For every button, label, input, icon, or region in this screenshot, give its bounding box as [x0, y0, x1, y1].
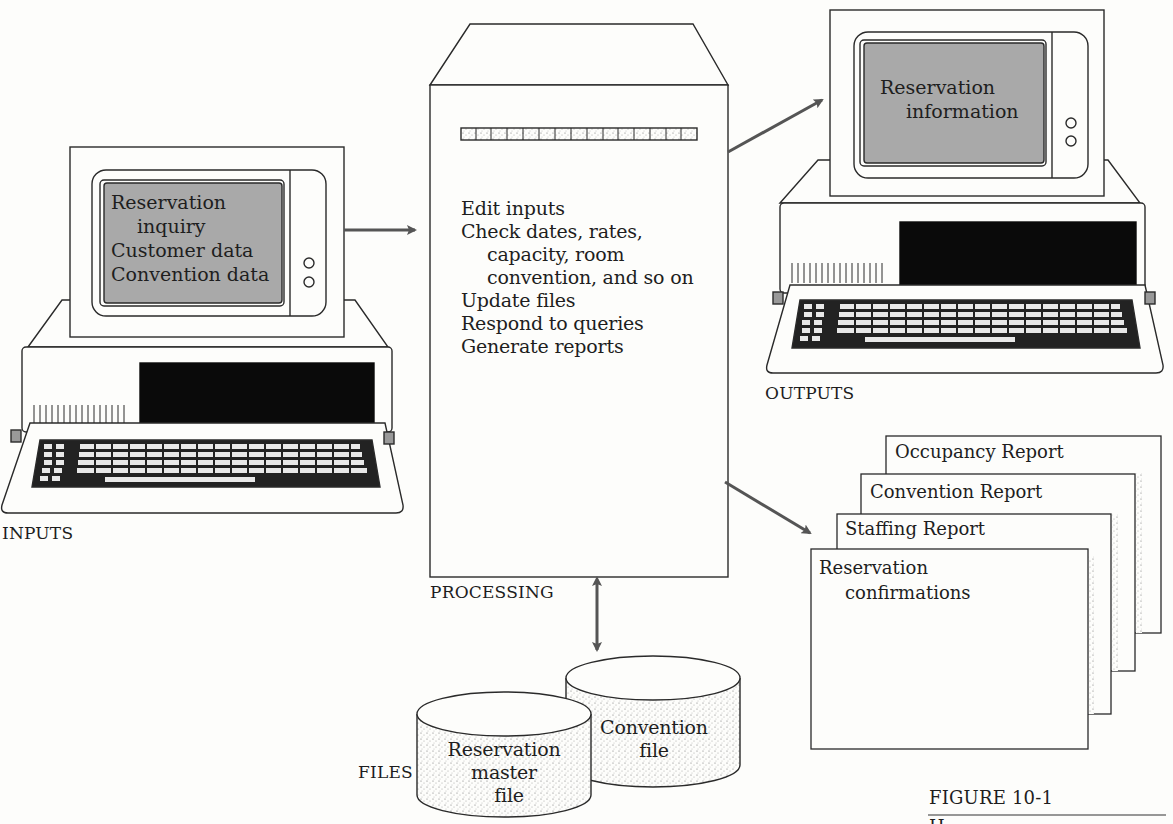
reservation-master-file-label: Reservation master file — [446, 738, 562, 807]
input-screen-text: Reservation inquiry Customer data Conven… — [111, 190, 269, 286]
figure-caption-cut: H — [929, 816, 945, 824]
processing-step: Edit inputs — [461, 197, 693, 220]
figure-caption: FIGURE 10-1 — [929, 787, 1053, 808]
output-computer-icon — [767, 10, 1164, 373]
diagram-graphics — [0, 0, 1173, 824]
report-convention: Convention Report — [870, 481, 1042, 502]
input-screen-line: Convention data — [111, 262, 269, 286]
arrow-processing-to-outputs — [728, 100, 822, 152]
files-label: FILES — [358, 762, 413, 782]
processing-label: PROCESSING — [430, 582, 554, 602]
file-label-line: master — [446, 761, 562, 784]
processing-step: Update files — [461, 289, 693, 312]
processing-step: capacity, room — [461, 243, 693, 266]
output-screen-line: information — [880, 99, 1019, 123]
processing-step: convention, and so on — [461, 266, 693, 289]
processing-step: Check dates, rates, — [461, 220, 693, 243]
processing-step: Respond to queries — [461, 312, 693, 335]
report-reservation-confirmations: Reservation confirmations — [819, 555, 971, 605]
file-label-line: file — [446, 784, 562, 807]
report-occupancy: Occupancy Report — [895, 441, 1064, 462]
arrow-processing-to-reports — [725, 482, 810, 533]
output-screen-text: Reservation information — [880, 75, 1019, 123]
convention-file-label: Convention file — [599, 716, 709, 762]
report-line: confirmations — [819, 580, 971, 605]
outputs-label: OUTPUTS — [765, 383, 854, 403]
processing-step: Generate reports — [461, 335, 693, 358]
processing-steps: Edit inputs Check dates, rates, capacity… — [461, 197, 693, 358]
report-staffing: Staffing Report — [845, 518, 985, 539]
inputs-label: INPUTS — [2, 523, 73, 543]
output-screen-line: Reservation — [880, 75, 1019, 99]
input-screen-line: Customer data — [111, 238, 269, 262]
input-screen-line: inquiry — [111, 214, 269, 238]
report-line: Reservation — [819, 555, 971, 580]
input-screen-line: Reservation — [111, 190, 269, 214]
file-label-line: Reservation — [446, 738, 562, 761]
file-label-line: Convention — [599, 716, 709, 739]
file-label-line: file — [599, 739, 709, 762]
